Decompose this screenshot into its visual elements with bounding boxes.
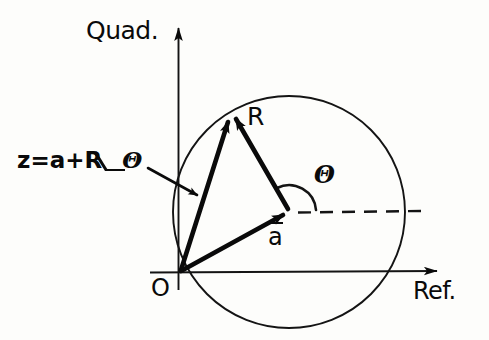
offset-vector-label: a <box>268 222 283 249</box>
reference-axis <box>150 271 437 273</box>
radius-vector-label: R <box>247 104 264 129</box>
offset-vector-label-text: a <box>268 222 283 249</box>
figure-canvas: Quad. Ref. O R Θ a z=a+RΘ <box>0 0 489 340</box>
equation-a-term: a <box>50 147 66 173</box>
equation-pointer-arrow <box>148 168 197 195</box>
reference-axis-label: Ref. <box>413 279 456 303</box>
equation-angle-notation: Θ <box>102 148 138 172</box>
origin-label: O <box>151 276 170 300</box>
equation-theta-term: Θ <box>122 146 142 173</box>
theta-angle-label: Θ <box>314 163 335 187</box>
quadrature-axis-label: Quad. <box>86 18 158 43</box>
angle-reference-dashed-line <box>298 211 421 213</box>
vector-r <box>236 119 288 209</box>
equation-annotation: z=a+RΘ <box>17 148 138 172</box>
angle-symbol-icon <box>105 152 118 171</box>
equation-z-term: z <box>17 147 30 173</box>
equation-equals-sign: = <box>30 147 49 173</box>
equation-plus-sign: + <box>65 147 84 173</box>
